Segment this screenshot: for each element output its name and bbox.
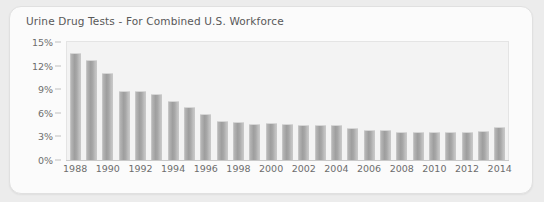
y-axis-tick-mark [55,65,61,66]
bar-series [67,42,508,160]
bar-slot [214,42,230,160]
bar-slot [377,42,393,160]
y-axis-tick-label: 15% [32,37,53,48]
bar-slot [394,42,410,160]
bar-slot [279,42,295,160]
bar-slot [443,42,459,160]
bar[interactable] [282,124,293,160]
y-axis-tick-label: 9% [38,84,53,95]
chart-card: Urine Drug Tests - For Combined U.S. Wor… [9,6,533,194]
x-axis-slot: 1998 [230,163,246,179]
bar[interactable] [184,107,195,160]
bar[interactable] [315,125,326,160]
screenshot-root: Urine Drug Tests - For Combined U.S. Wor… [0,0,544,202]
x-axis-slot: 2012 [459,163,475,179]
bar-slot [230,42,246,160]
x-axis-tick-label: 2014 [488,163,512,174]
bar[interactable] [70,53,81,160]
bar[interactable] [135,91,146,160]
bar[interactable] [462,132,473,160]
bar[interactable] [413,132,424,160]
y-axis-tick-mark [55,112,61,113]
y-axis-tick-mark [55,42,61,43]
bar[interactable] [445,132,456,160]
bar[interactable] [151,94,162,160]
bar[interactable] [266,123,277,160]
bar-slot [459,42,475,160]
bar-slot [296,42,312,160]
bar[interactable] [331,125,342,160]
chart-title: Urine Drug Tests - For Combined U.S. Wor… [26,15,284,27]
bar[interactable] [249,124,260,160]
bar[interactable] [380,130,391,160]
bar-slot [116,42,132,160]
bar[interactable] [478,131,489,160]
bar-slot [198,42,214,160]
x-axis-slot: 2010 [426,163,442,179]
bar-slot [475,42,491,160]
x-axis-slot: 1992 [132,163,148,179]
bar[interactable] [298,125,309,160]
bar[interactable] [494,127,505,160]
y-axis-tick-label: 6% [38,107,53,118]
bar[interactable] [200,114,211,160]
bar-slot [263,42,279,160]
x-axis-slot: 2002 [296,163,312,179]
x-axis-slot: 1988 [67,163,83,179]
y-axis: 0%3%6%9%12%15% [20,31,64,171]
bar-slot [345,42,361,160]
x-axis: 1988199019921994199619982000200220042006… [67,163,508,179]
bar-slot [100,42,116,160]
y-axis-tick-mark [55,136,61,137]
bar-slot [149,42,165,160]
bar-slot [247,42,263,160]
bar[interactable] [119,91,130,160]
bar[interactable] [86,60,97,160]
bar-slot [181,42,197,160]
bar-slot [312,42,328,160]
bar[interactable] [396,132,407,160]
x-axis-line [66,160,509,161]
bar-slot [132,42,148,160]
bar-slot [410,42,426,160]
bar[interactable] [233,122,244,160]
bar-slot [83,42,99,160]
chart-area: 0%3%6%9%12%15% 1988199019921994199619982… [20,31,524,183]
bar-slot [426,42,442,160]
bar-slot [67,42,83,160]
bar-slot [361,42,377,160]
x-axis-slot: 2000 [263,163,279,179]
x-axis-slot: 2004 [328,163,344,179]
bar-slot [165,42,181,160]
y-axis-tick-label: 0% [38,155,53,166]
y-axis-tick-mark [55,160,61,161]
x-axis-slot: 1994 [165,163,181,179]
x-axis-slot: 2014 [492,163,508,179]
x-axis-slot: 2006 [361,163,377,179]
bar[interactable] [364,130,375,160]
bar[interactable] [168,101,179,160]
x-axis-slot: 2008 [394,163,410,179]
bar[interactable] [217,121,228,160]
x-axis-slot: 1990 [100,163,116,179]
x-axis-slot: 1996 [198,163,214,179]
bar[interactable] [347,128,358,160]
bar-slot [492,42,508,160]
bar[interactable] [102,73,113,160]
y-axis-tick-label: 3% [38,131,53,142]
y-axis-tick-mark [55,89,61,90]
bar-slot [328,42,344,160]
bar[interactable] [429,132,440,160]
y-axis-tick-label: 12% [32,60,53,71]
